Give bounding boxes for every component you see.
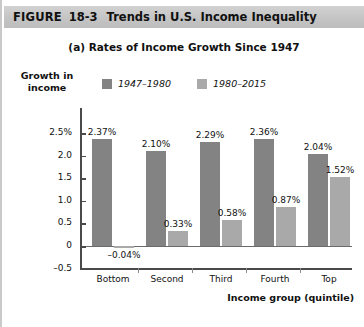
y-tick-label-text: 1.5 <box>28 172 72 182</box>
y-tick-label-text: 0 <box>28 240 72 250</box>
y-tick-label: 0 <box>28 240 76 250</box>
legend-item-1947-1980: 1947–1980 <box>102 78 171 89</box>
bar-top-1980-2015 <box>330 177 350 246</box>
bar-value-label: 2.29% <box>189 130 231 140</box>
bar-third-1947-1980 <box>200 142 220 246</box>
y-tick-label-text: 2.5% <box>28 127 72 137</box>
x-axis-title: Income group (quintile) <box>227 292 354 303</box>
y-tick-mark <box>80 223 86 225</box>
y-axis-title: Growth in income <box>16 70 78 93</box>
y-tick-label-text: –0.5 <box>28 263 72 273</box>
bar-value-label: 0.33% <box>157 219 199 229</box>
legend-item-1980-2015: 1980–2015 <box>197 78 266 89</box>
x-axis-separator <box>138 268 139 273</box>
bar-value-label: 1.52% <box>319 165 361 175</box>
bar-value-label: 2.10% <box>135 139 177 149</box>
bar-value-label: 2.36% <box>243 127 285 137</box>
bar-fourth-1947-1980 <box>254 139 274 246</box>
figure-header-band: FIGURE 18-3 Trends in U.S. Income Inequa… <box>4 6 364 28</box>
bar-bottom-1947-1980 <box>92 139 112 246</box>
bar-bottom-1980-2015 <box>114 246 134 248</box>
legend-swatch-light <box>197 79 207 89</box>
x-axis-separator <box>246 268 247 273</box>
bar-fourth-1980-2015 <box>276 207 296 246</box>
y-tick-label-text: 2.0 <box>28 150 72 160</box>
y-tick-label: 1.5 <box>28 172 76 182</box>
y-tick-label: 1.0 <box>28 195 76 205</box>
figure-label: FIGURE <box>13 10 62 24</box>
figure-number: 18-3 <box>69 10 98 24</box>
y-tick-label: –0.5 <box>28 263 76 273</box>
legend-swatch-dark <box>102 79 112 89</box>
bar-value-label: –0.04% <box>103 250 145 260</box>
panel-subtitle: (a) Rates of Income Growth Since 1947 <box>2 41 364 53</box>
y-tick-mark <box>80 178 86 180</box>
x-axis-separator <box>300 268 301 273</box>
y-tick-mark <box>80 269 86 271</box>
y-tick-label: 2.5% <box>28 127 76 137</box>
bar-second-1947-1980 <box>146 151 166 246</box>
bar-value-label: 0.58% <box>211 208 253 218</box>
bar-value-label: 2.04% <box>297 142 339 152</box>
y-tick-mark <box>80 201 86 203</box>
x-axis-separator <box>192 268 193 273</box>
y-axis-title-line2: income <box>28 82 67 93</box>
x-category-label-fourth: Fourth <box>245 274 305 284</box>
y-tick-label: 0.5 <box>28 217 76 227</box>
bar-value-label: 2.37% <box>81 127 123 137</box>
bar-second-1980-2015 <box>168 231 188 246</box>
legend-label-1980-2015: 1980–2015 <box>213 78 266 89</box>
figure-container: FIGURE 18-3 Trends in U.S. Income Inequa… <box>0 0 364 327</box>
y-tick-label-text: 0.5 <box>28 217 72 227</box>
x-category-label-top: Top <box>299 274 359 284</box>
legend-label-1947-1980: 1947–1980 <box>118 78 171 89</box>
x-category-label-third: Third <box>191 274 251 284</box>
y-tick-label: 2.0 <box>28 150 76 160</box>
y-tick-mark <box>80 246 86 248</box>
x-axis-line <box>80 268 352 270</box>
y-tick-mark <box>80 156 86 158</box>
y-axis-title-line1: Growth in <box>21 70 73 81</box>
bar-value-label: 0.87% <box>265 195 307 205</box>
y-tick-label-text: 1.0 <box>28 195 72 205</box>
figure-title: Trends in U.S. Income Inequality <box>107 10 317 24</box>
bar-third-1980-2015 <box>222 220 242 246</box>
x-category-label-bottom: Bottom <box>83 274 143 284</box>
x-category-label-second: Second <box>137 274 197 284</box>
